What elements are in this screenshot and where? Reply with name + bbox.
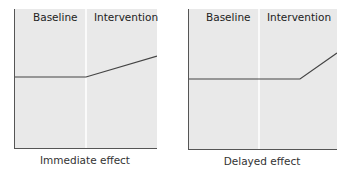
delayed-effect-plot: [189, 9, 337, 149]
panel-delayed-effect: Baseline Intervention: [188, 9, 337, 150]
baseline-label: Baseline: [206, 11, 251, 23]
caption-immediate-effect: Immediate effect: [14, 154, 156, 166]
intervention-label: Intervention: [94, 11, 158, 23]
immediate-effect-plot: [15, 9, 157, 148]
intervention-label: Intervention: [267, 11, 331, 23]
trend-line: [189, 53, 337, 79]
caption-delayed-effect: Delayed effect: [188, 155, 336, 167]
panel-immediate-effect: Baseline Intervention: [14, 9, 157, 149]
baseline-label: Baseline: [33, 11, 78, 23]
